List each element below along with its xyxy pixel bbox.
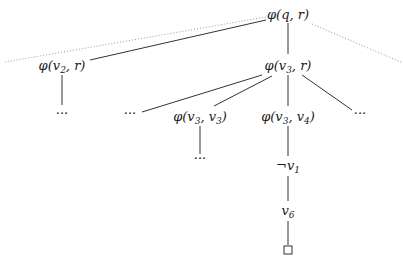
edge-root-right-dotted (312, 24, 403, 63)
closed-branch-box-icon (284, 246, 292, 254)
edge-v3r-c1 (142, 75, 262, 112)
node-v6: v6 (281, 203, 294, 220)
edge-v3r-c4 (302, 75, 352, 110)
node-ellipsis-v2r-child: ··· (56, 106, 68, 121)
node-root: φ(q, r) (267, 7, 309, 22)
node-phi-v3-r: φ(v3, r) (265, 58, 312, 75)
node-ellipsis-v3r-left: ··· (124, 106, 136, 121)
node-ellipsis-v3v3-child: ··· (194, 151, 206, 166)
edge-root-v2r (90, 20, 266, 60)
node-phi-v3-v3: φ(v3, v3) (173, 109, 227, 126)
proof-tree-diagram: φ(q, r) φ(v2, r) φ(v3, r) ··· ··· φ(v3, … (0, 0, 403, 259)
edge-root-left-dotted (5, 17, 266, 62)
node-phi-v3-v4: φ(v3, v4) (261, 109, 315, 126)
node-phi-v2-r: φ(v2, r) (39, 58, 86, 75)
node-not-v1: ¬v1 (276, 158, 300, 175)
node-ellipsis-v3r-right: ··· (354, 106, 366, 121)
